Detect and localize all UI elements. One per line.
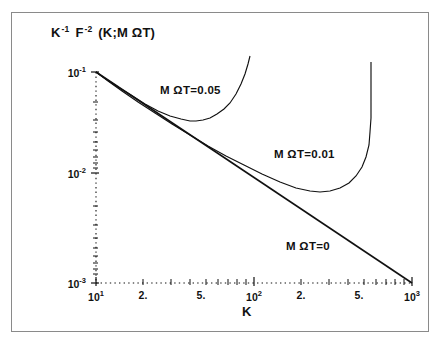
x-tick-label-1e2-base: 10: [246, 291, 258, 303]
title-k-exponent: -1: [61, 24, 72, 34]
y-tick-label-1e-3-base: 10: [68, 278, 80, 290]
x-axis-title: K: [242, 304, 251, 319]
y-tick-label-1e-3-sup: -3: [79, 276, 86, 285]
x-tick-label-1e1-base: 10: [88, 291, 100, 303]
curve-mot-001: [96, 62, 371, 192]
x-tick-label-1e1-sup: 1: [100, 289, 104, 298]
x-tick-label-1e1: 101: [83, 289, 109, 303]
x-tick-label-20: 2.: [130, 289, 156, 301]
title-args: (K;M ΩT): [98, 25, 155, 40]
x-tick-label-200: 2.: [288, 289, 314, 301]
y-tick-label-1e-2-base: 10: [68, 168, 80, 180]
x-minor-ticks: [143, 279, 404, 285]
curve-annotation-mot-005: M ΩT=0.05: [160, 84, 221, 96]
y-tick-label-1e-1: 10-1: [52, 65, 86, 79]
x-tick-label-1e2: 102: [241, 289, 267, 303]
x-tick-label-500: 5.: [346, 289, 372, 301]
x-tick-label-1e3-sup: 3: [416, 289, 420, 298]
y-tick-label-1e-1-base: 10: [68, 67, 80, 79]
title-f: F: [75, 25, 83, 40]
x-tick-label-1e3: 103: [399, 289, 425, 303]
y-tick-label-1e-2-sup: -2: [79, 166, 86, 175]
figure-page: K-1 F-2 (K;M ΩT) 10-1 10-2 10-3 101 2. 5…: [0, 0, 442, 346]
y-tick-label-1e-1-sup: -1: [79, 65, 86, 74]
y-tick-label-1e-3: 10-3: [52, 276, 86, 290]
x-tick-label-1e3-base: 10: [404, 291, 416, 303]
plot-title: K-1 F-2 (K;M ΩT): [51, 24, 155, 40]
x-tick-label-50: 5.: [188, 289, 214, 301]
x-tick-label-1e2-sup: 2: [258, 289, 262, 298]
curve-annotation-mot-001: M ΩT=0.01: [274, 148, 335, 160]
title-k: K: [51, 25, 61, 40]
curve-annotation-mot-0: M ΩT=0: [286, 240, 330, 252]
title-f-exponent: -2: [84, 24, 95, 34]
curve-mot-0: [96, 72, 412, 283]
y-tick-label-1e-2: 10-2: [52, 166, 86, 180]
